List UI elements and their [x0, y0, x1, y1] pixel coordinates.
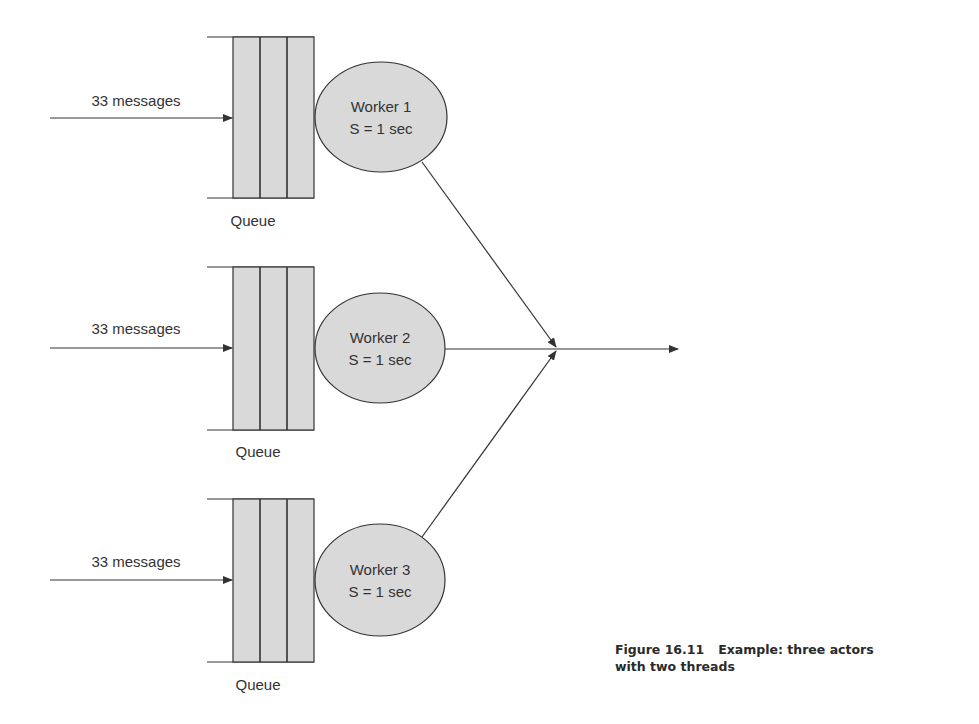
output-arrow-1: [422, 162, 556, 347]
service-time-1: S = 1 sec: [350, 120, 413, 137]
queue-label-1: Queue: [230, 212, 275, 229]
caption-title-line1: Example: three actors: [718, 642, 873, 657]
queue-label-3: Queue: [235, 676, 280, 693]
worker-2: Worker 2 S = 1 sec: [315, 293, 445, 403]
row-2: 33 messages Queue Worker 2 S = 1 sec: [50, 267, 445, 460]
input-label-2: 33 messages: [91, 320, 180, 337]
output-arrow-3: [422, 351, 556, 537]
service-time-2: S = 1 sec: [349, 351, 412, 368]
worker-3: Worker 3 S = 1 sec: [315, 524, 445, 636]
worker-name-2: Worker 2: [350, 329, 411, 346]
figure-caption: Figure 16.11Example: three actors with t…: [615, 641, 975, 675]
service-time-3: S = 1 sec: [349, 583, 412, 600]
row-3: 33 messages Queue Worker 3 S = 1 sec: [50, 499, 445, 693]
actor-queue-diagram: 33 messages Queue Worker 1 S = 1 sec 33 …: [0, 0, 979, 724]
input-label-1: 33 messages: [91, 92, 180, 109]
input-label-3: 33 messages: [91, 553, 180, 570]
queue-label-2: Queue: [235, 443, 280, 460]
row-1: 33 messages Queue Worker 1 S = 1 sec: [50, 37, 447, 229]
worker-name-1: Worker 1: [351, 98, 412, 115]
worker-1: Worker 1 S = 1 sec: [315, 62, 447, 172]
caption-number: Figure 16.11: [615, 642, 704, 657]
caption-title-line2: with two threads: [615, 658, 975, 675]
worker-name-3: Worker 3: [350, 561, 411, 578]
